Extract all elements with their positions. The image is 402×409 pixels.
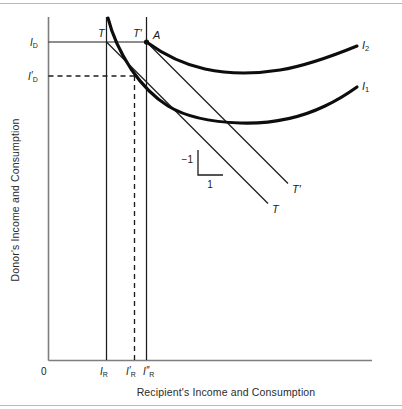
chart-background — [0, 0, 402, 409]
label-slope-rise: −1 — [182, 154, 194, 165]
figure-root: ID I′D 0 IR I′R I″R T T′ A T T′ I2 I1 −1… — [0, 0, 402, 409]
y-axis-title: Donor's Income and Consumption — [9, 119, 21, 282]
origin-label: 0 — [41, 366, 47, 377]
indifference-curve-chart: ID I′D 0 IR I′R I″R T T′ A T T′ I2 I1 −1… — [0, 0, 402, 409]
label-slope-run: 1 — [207, 179, 213, 190]
x-axis-title: Recipient's Income and Consumption — [137, 386, 316, 398]
label-line-T-prime-end: T′ — [292, 183, 302, 195]
label-point-A: A — [152, 29, 160, 41]
point-A-dot — [144, 39, 149, 44]
label-point-T-prime: T′ — [133, 27, 143, 39]
